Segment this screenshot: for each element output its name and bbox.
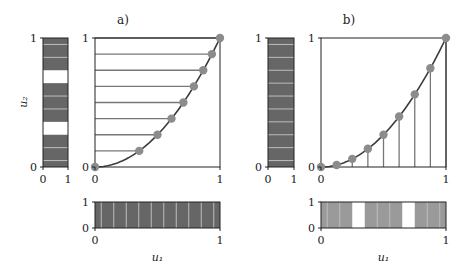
main-plot: 1001 — [308, 32, 450, 186]
bottom-marginal-strip: 1001 — [308, 196, 450, 247]
panel-title: b) — [343, 13, 355, 27]
x-tick-label: 1 — [443, 234, 450, 247]
x-tick-label: 1 — [217, 234, 224, 247]
panel-a: a)100110011001u₁u₂ — [17, 13, 224, 264]
x-axis-label: u₁ — [378, 251, 390, 264]
y-tick-label: 0 — [308, 161, 315, 174]
white-band — [352, 202, 365, 228]
main-plot: 1001 — [82, 32, 224, 186]
x-tick-label: 0 — [92, 234, 99, 247]
panel-b: b)100110011001u₁ — [255, 13, 450, 264]
figure: a)100110011001u₁u₂b)100110011001u₁ — [0, 0, 470, 272]
sample-marker — [395, 112, 403, 120]
white-band — [43, 70, 68, 83]
sample-marker — [199, 66, 207, 74]
y-tick-label: 0 — [82, 222, 89, 235]
sample-marker — [179, 98, 187, 106]
y-tick-label: 0 — [255, 161, 262, 174]
x-tick-label: 1 — [65, 173, 72, 186]
x-tick-label: 0 — [92, 173, 99, 186]
white-band — [402, 202, 415, 228]
y-tick-label: 1 — [30, 32, 37, 45]
x-tick-label: 1 — [217, 173, 224, 186]
sample-marker — [411, 90, 419, 98]
sample-marker — [190, 82, 198, 90]
y-tick-label: 0 — [82, 161, 89, 174]
x-tick-label: 0 — [318, 173, 325, 186]
sample-marker — [153, 131, 161, 139]
y-tick-label: 0 — [30, 161, 37, 174]
figure-canvas: a)100110011001u₁u₂b)100110011001u₁ — [0, 0, 470, 272]
sample-marker — [216, 34, 224, 42]
sample-marker — [379, 131, 387, 139]
sample-marker — [135, 147, 143, 155]
x-axis-label: u₁ — [152, 251, 164, 264]
sample-marker — [208, 50, 216, 58]
y-tick-label: 1 — [82, 196, 89, 209]
x-tick-label: 0 — [265, 173, 272, 186]
sample-marker — [167, 114, 175, 122]
x-tick-label: 1 — [291, 173, 298, 186]
x-tick-label: 1 — [443, 173, 450, 186]
panel-title: a) — [117, 13, 129, 27]
bottom-marginal-strip: 1001 — [82, 196, 224, 247]
left-marginal-strip: 1001 — [255, 32, 298, 186]
left-marginal-strip: 1001 — [30, 32, 72, 186]
sample-marker — [348, 155, 356, 163]
sample-marker — [426, 64, 434, 72]
y-axis-label: u₂ — [17, 96, 30, 108]
white-band — [43, 122, 68, 135]
sample-marker — [364, 145, 372, 153]
y-tick-label: 1 — [255, 32, 262, 45]
y-tick-label: 0 — [308, 222, 315, 235]
y-tick-label: 1 — [308, 196, 315, 209]
sample-marker — [332, 161, 340, 169]
sample-marker — [442, 34, 450, 42]
x-tick-label: 0 — [40, 173, 47, 186]
y-tick-label: 1 — [308, 32, 315, 45]
y-tick-label: 1 — [82, 32, 89, 45]
x-tick-label: 0 — [318, 234, 325, 247]
